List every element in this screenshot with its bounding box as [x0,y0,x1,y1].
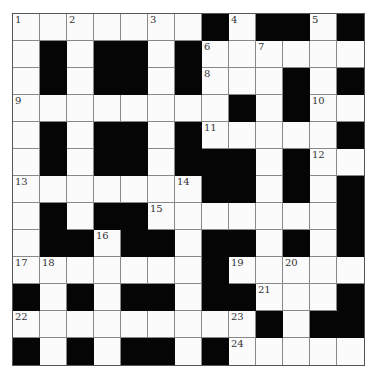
answer-cell[interactable] [148,176,175,203]
answer-cell[interactable] [175,14,202,41]
answer-cell[interactable] [337,41,364,68]
answer-cell[interactable] [229,41,256,68]
answer-cell[interactable] [175,203,202,230]
answer-cell[interactable] [40,338,67,365]
answer-cell[interactable] [310,176,337,203]
answer-cell[interactable] [229,68,256,95]
answer-cell[interactable] [175,257,202,284]
answer-cell[interactable]: 2 [67,14,94,41]
answer-cell[interactable]: 15 [148,203,175,230]
answer-cell[interactable] [94,338,121,365]
answer-cell[interactable] [175,230,202,257]
answer-cell[interactable] [40,284,67,311]
answer-cell[interactable]: 4 [229,14,256,41]
answer-cell[interactable] [337,257,364,284]
answer-cell[interactable]: 6 [202,41,229,68]
answer-cell[interactable]: 10 [310,95,337,122]
answer-cell[interactable]: 13 [13,176,40,203]
answer-cell[interactable]: 23 [229,311,256,338]
answer-cell[interactable] [310,230,337,257]
answer-cell[interactable] [67,257,94,284]
answer-cell[interactable] [310,284,337,311]
answer-cell[interactable] [13,68,40,95]
answer-cell[interactable] [94,257,121,284]
answer-cell[interactable]: 3 [148,14,175,41]
answer-cell[interactable] [283,122,310,149]
answer-cell[interactable] [256,257,283,284]
answer-cell[interactable] [40,95,67,122]
answer-cell[interactable]: 16 [94,230,121,257]
answer-cell[interactable] [310,68,337,95]
answer-cell[interactable] [283,338,310,365]
answer-cell[interactable]: 19 [229,257,256,284]
answer-cell[interactable] [67,203,94,230]
answer-cell[interactable] [148,122,175,149]
answer-cell[interactable] [202,203,229,230]
answer-cell[interactable] [175,311,202,338]
answer-cell[interactable]: 18 [40,257,67,284]
answer-cell[interactable]: 12 [310,149,337,176]
answer-cell[interactable] [94,284,121,311]
answer-cell[interactable] [256,203,283,230]
answer-cell[interactable]: 7 [256,41,283,68]
answer-cell[interactable]: 20 [283,257,310,284]
answer-cell[interactable] [148,311,175,338]
answer-cell[interactable] [94,95,121,122]
answer-cell[interactable] [148,257,175,284]
answer-cell[interactable] [94,176,121,203]
answer-cell[interactable] [256,149,283,176]
answer-cell[interactable]: 11 [202,122,229,149]
answer-cell[interactable]: 21 [256,284,283,311]
answer-cell[interactable] [310,257,337,284]
answer-cell[interactable] [256,176,283,203]
answer-cell[interactable] [283,41,310,68]
answer-cell[interactable] [13,203,40,230]
answer-cell[interactable] [94,14,121,41]
answer-cell[interactable] [40,311,67,338]
answer-cell[interactable] [67,149,94,176]
answer-cell[interactable] [175,338,202,365]
answer-cell[interactable] [67,176,94,203]
answer-cell[interactable]: 14 [175,176,202,203]
answer-cell[interactable]: 8 [202,68,229,95]
answer-cell[interactable]: 17 [13,257,40,284]
answer-cell[interactable] [310,41,337,68]
answer-cell[interactable]: 9 [13,95,40,122]
answer-cell[interactable] [337,95,364,122]
answer-cell[interactable] [13,41,40,68]
answer-cell[interactable] [310,122,337,149]
answer-cell[interactable] [148,41,175,68]
answer-cell[interactable] [40,14,67,41]
answer-cell[interactable] [67,68,94,95]
answer-cell[interactable] [256,68,283,95]
answer-cell[interactable] [148,95,175,122]
answer-cell[interactable] [337,149,364,176]
answer-cell[interactable]: 22 [13,311,40,338]
answer-cell[interactable] [256,122,283,149]
answer-cell[interactable] [175,95,202,122]
answer-cell[interactable] [148,149,175,176]
answer-cell[interactable] [94,311,121,338]
answer-cell[interactable] [283,203,310,230]
answer-cell[interactable] [310,203,337,230]
answer-cell[interactable] [67,311,94,338]
answer-cell[interactable] [40,176,67,203]
answer-cell[interactable] [256,230,283,257]
answer-cell[interactable] [256,95,283,122]
answer-cell[interactable] [67,122,94,149]
answer-cell[interactable] [256,338,283,365]
answer-cell[interactable]: 1 [13,14,40,41]
answer-cell[interactable] [121,95,148,122]
answer-cell[interactable] [175,284,202,311]
answer-cell[interactable] [229,203,256,230]
answer-cell[interactable] [310,338,337,365]
answer-cell[interactable] [13,230,40,257]
answer-cell[interactable] [148,68,175,95]
answer-cell[interactable]: 5 [310,14,337,41]
answer-cell[interactable] [121,257,148,284]
answer-cell[interactable] [202,311,229,338]
answer-cell[interactable] [202,95,229,122]
answer-cell[interactable]: 24 [229,338,256,365]
answer-cell[interactable] [121,14,148,41]
answer-cell[interactable] [337,338,364,365]
